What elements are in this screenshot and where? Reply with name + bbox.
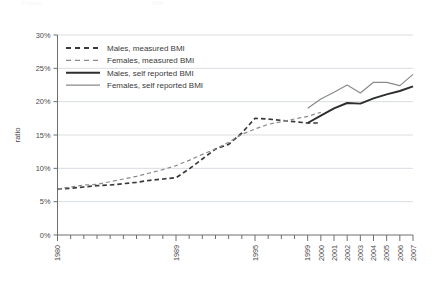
x-tick-label: 2001 [330, 245, 339, 261]
legend-label-0: Males, measured BMI [107, 44, 185, 53]
x-tick-label: 2002 [343, 245, 352, 261]
x-tick-group [58, 235, 414, 241]
x-tick-label: 2007 [409, 245, 418, 261]
x-tick-label: 2005 [382, 245, 391, 261]
y-tick-label: 5% [40, 197, 51, 206]
y-tick-group [54, 35, 58, 235]
y-tick-label: 20% [36, 97, 51, 106]
series-line-2 [308, 86, 413, 123]
x-tick-label: 1999 [303, 245, 312, 261]
y-tick-label: 30% [36, 31, 51, 40]
line-chart: 0%5%10%15%20%25%30% 19801989199519992000… [0, 0, 447, 281]
x-tick-label: 1980 [53, 245, 62, 261]
series-group [58, 74, 414, 189]
y-axis-title: ratio [13, 128, 22, 143]
legend-label-1: Females, measured BMI [107, 56, 194, 65]
y-tick-label: 0% [40, 231, 51, 240]
y-tick-label: 25% [36, 64, 51, 73]
x-tick-label: 2003 [356, 245, 365, 261]
x-tick-label-group: 1980198919951999200020012002200320042005… [53, 245, 418, 261]
chart-legend: Males, measured BMIFemales, measured BMI… [66, 44, 203, 90]
legend-label-2: Males, self reported BMI [107, 69, 194, 78]
series-line-0 [58, 118, 321, 189]
x-tick-label: 1989 [172, 245, 181, 261]
x-tick-label: 2000 [317, 245, 326, 261]
series-line-1 [58, 112, 321, 189]
chart-container: Figure BMI 0%5%10%15%20%25%30% 198019891… [0, 0, 447, 281]
y-tick-label: 10% [36, 164, 51, 173]
x-tick-label: 2006 [396, 245, 405, 261]
x-tick-label: 1995 [251, 245, 260, 261]
x-tick-label: 2004 [369, 245, 378, 261]
y-tick-label-group: 0%5%10%15%20%25%30% [36, 31, 51, 240]
y-tick-label: 15% [36, 131, 51, 140]
legend-label-3: Females, self reported BMI [107, 81, 203, 90]
